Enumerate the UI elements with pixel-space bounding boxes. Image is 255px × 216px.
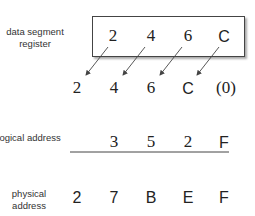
logical-digit: 3 — [104, 132, 124, 152]
physical-digit: 2 — [67, 188, 87, 208]
physical-address-label: physical address — [0, 188, 64, 212]
physical-digit: F — [214, 188, 234, 208]
logical-digit: 5 — [141, 132, 161, 152]
logical-digit: 2 — [178, 132, 198, 152]
physical-digit: 7 — [104, 188, 124, 208]
logical-digit: F — [214, 133, 234, 153]
physical-digit: E — [178, 188, 198, 208]
shifted-digit: 2 — [67, 78, 87, 98]
shift-arrows — [0, 0, 255, 216]
shifted-digit-zero: (0) — [212, 78, 240, 98]
shifted-digit: 4 — [104, 78, 124, 98]
physical-digit: B — [141, 188, 161, 208]
logical-address-label: logical address — [0, 132, 64, 144]
segment-address-diagram: data segment register 2 4 6 C 2 4 6 C (0… — [0, 0, 255, 216]
shifted-digit: C — [178, 79, 198, 99]
shifted-digit: 6 — [141, 78, 161, 98]
